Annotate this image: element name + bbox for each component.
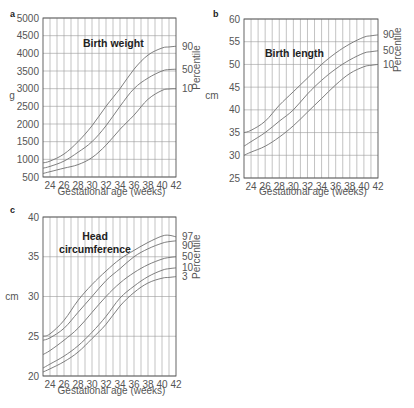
- y-tick-label: 2000: [17, 119, 40, 130]
- chart-title: circumference: [59, 243, 131, 255]
- x-tick-label: 42: [372, 181, 384, 192]
- y-tick-label: 30: [28, 291, 40, 302]
- y-tick-label: 500: [22, 172, 39, 183]
- chart-title: Head: [82, 230, 108, 242]
- x-tick-label: 42: [170, 180, 182, 191]
- x-tick-label: 24: [245, 181, 257, 192]
- y-tick-label: 1000: [17, 154, 40, 165]
- percentile-axis-label: Percentile: [191, 234, 202, 279]
- percentile-curve-50: [43, 69, 176, 168]
- x-axis-label: Gestational age (weeks): [58, 385, 166, 396]
- x-axis-label: Gestational age (weeks): [259, 186, 367, 197]
- y-tick-label: 3500: [17, 66, 40, 77]
- y-tick-label: 40: [229, 104, 241, 115]
- percentile-curve-90: [43, 46, 176, 163]
- plot-frame: [244, 19, 378, 178]
- percentile-curve-50: [244, 51, 378, 146]
- percentile-curve-90: [43, 241, 176, 340]
- x-tick-label: 24: [44, 379, 56, 390]
- y-tick-label: 4000: [17, 48, 40, 59]
- y-tick-label: 60: [229, 14, 241, 25]
- y-tick-label: 1500: [17, 136, 40, 147]
- percentile-curve-3: [43, 277, 176, 372]
- percentile-curve-10: [43, 268, 176, 368]
- y-tick-label: 25: [28, 331, 40, 342]
- y-tick-label: 35: [28, 251, 40, 262]
- panel-letter: b: [213, 9, 219, 19]
- y-tick-label: 3000: [17, 83, 40, 94]
- y-axis-label: cm: [5, 291, 18, 302]
- y-tick-label: 4500: [17, 30, 40, 41]
- y-tick-label: 40: [28, 212, 40, 223]
- y-tick-label: 25: [229, 173, 241, 184]
- panel-letter: a: [10, 9, 16, 19]
- y-tick-label: 5000: [17, 13, 40, 24]
- y-axis-label: g: [9, 90, 15, 101]
- percentile-axis-label: Percentile: [191, 45, 202, 90]
- y-axis-label: cm: [205, 90, 218, 101]
- x-tick-label: 42: [170, 379, 182, 390]
- chart-title: Birth length: [265, 47, 324, 59]
- x-tick-label: 24: [44, 180, 56, 191]
- panel-letter: c: [10, 205, 15, 215]
- percentile-axis-label: Percentile: [392, 27, 403, 72]
- y-tick-label: 2500: [17, 101, 40, 112]
- percentile-label: 3: [182, 271, 188, 282]
- y-tick-label: 55: [229, 36, 241, 47]
- chart-title: Birth weight: [83, 37, 144, 49]
- y-tick-label: 45: [229, 82, 241, 93]
- y-tick-label: 30: [229, 150, 241, 161]
- y-tick-label: 50: [229, 59, 241, 70]
- y-tick-label: 20: [28, 371, 40, 382]
- growth-charts: 5001000150020002500300035004000450050002…: [0, 0, 414, 408]
- percentile-curve-50: [43, 257, 176, 355]
- x-axis-label: Gestational age (weeks): [58, 186, 166, 197]
- y-tick-label: 35: [229, 127, 241, 138]
